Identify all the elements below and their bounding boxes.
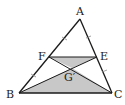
label-g-prime: G′ (64, 71, 76, 84)
label-f: F (38, 50, 46, 63)
label-a: A (75, 5, 85, 18)
label-c: C (114, 88, 122, 101)
label-e: E (100, 50, 108, 63)
shaded-triangle-feg (49, 57, 97, 68)
label-b: B (6, 88, 14, 101)
triangle-diagram: A F E G′ B C (0, 0, 125, 105)
